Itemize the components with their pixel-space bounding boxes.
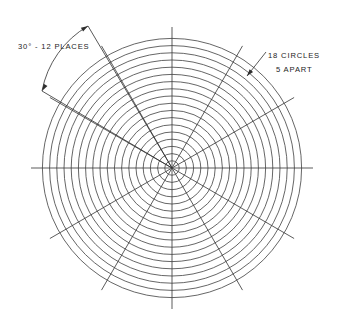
circles-note-line-2: 5 APART [276,65,312,74]
angle-note-label: 30° - 12 PLACES [18,42,90,51]
polar-grid-drawing: 30° - 12 PLACES 18 CIRCLES 5 APART [0,0,337,328]
technical-drawing-canvas: 30° - 12 PLACES 18 CIRCLES 5 APART [0,0,337,328]
circles-note-line-1: 18 CIRCLES [268,51,320,60]
